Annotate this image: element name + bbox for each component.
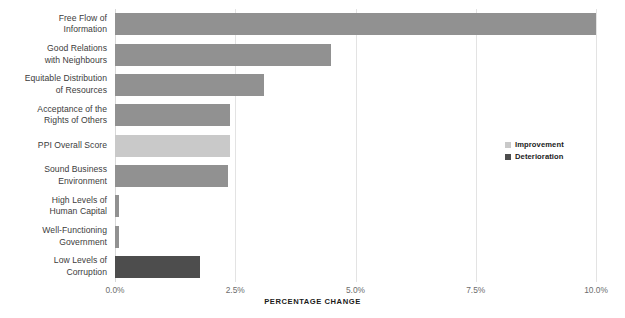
bar-chart: Free Flow ofInformationGood Relationswit… bbox=[0, 0, 625, 318]
legend-swatch-icon bbox=[505, 154, 511, 160]
category-label: Free Flow ofInformation bbox=[0, 13, 107, 36]
category-label: Equitable Distributionof Resources bbox=[0, 73, 107, 96]
x-tick-label: 0.0% bbox=[105, 285, 124, 295]
legend-item[interactable]: Deterioration bbox=[505, 151, 564, 162]
gridline-100 bbox=[596, 9, 597, 282]
category-label: Well-FunctioningGovernment bbox=[0, 225, 107, 248]
category-label-line: Human Capital bbox=[0, 206, 107, 217]
category-label-line: Environment bbox=[0, 176, 107, 187]
x-tick-label: 5.0% bbox=[346, 285, 365, 295]
category-label-line: Good Relations bbox=[0, 43, 107, 54]
x-tick-label: 7.5% bbox=[466, 285, 485, 295]
category-label: Low Levels ofCorruption bbox=[0, 255, 107, 278]
legend: ImprovementDeterioration bbox=[505, 139, 564, 163]
category-label-line: Corruption bbox=[0, 267, 107, 278]
category-label: PPI Overall Score bbox=[0, 140, 107, 151]
category-label-line: Well-Functioning bbox=[0, 225, 107, 236]
legend-label: Deterioration bbox=[515, 152, 564, 161]
x-axis-title: PERCENTAGE CHANGE bbox=[0, 297, 625, 306]
bar bbox=[115, 135, 230, 157]
category-label-line: Government bbox=[0, 237, 107, 248]
bar bbox=[115, 74, 264, 96]
category-label-line: Information bbox=[0, 24, 107, 35]
category-label-line: Equitable Distribution bbox=[0, 73, 107, 84]
category-axis-labels: Free Flow ofInformationGood Relationswit… bbox=[0, 9, 107, 282]
legend-item[interactable]: Improvement bbox=[505, 139, 564, 150]
category-label-line: of Resources bbox=[0, 85, 107, 96]
x-tick-label: 10.0% bbox=[584, 285, 608, 295]
bar bbox=[115, 13, 596, 35]
category-label: Acceptance of theRights of Others bbox=[0, 104, 107, 127]
category-label: Sound BusinessEnvironment bbox=[0, 164, 107, 187]
bar bbox=[115, 226, 119, 248]
legend-swatch-icon bbox=[505, 142, 511, 148]
category-label: Good Relationswith Neighbours bbox=[0, 43, 107, 66]
legend-label: Improvement bbox=[515, 140, 564, 149]
bar bbox=[115, 256, 200, 278]
category-label-line: Low Levels of bbox=[0, 255, 107, 266]
category-label-line: High Levels of bbox=[0, 195, 107, 206]
bar bbox=[115, 195, 119, 217]
x-tick-label: 2.5% bbox=[226, 285, 245, 295]
bar bbox=[115, 104, 230, 126]
category-label-line: PPI Overall Score bbox=[0, 140, 107, 151]
bar bbox=[115, 44, 331, 66]
bar bbox=[115, 165, 228, 187]
category-label-line: Sound Business bbox=[0, 164, 107, 175]
category-label-line: Rights of Others bbox=[0, 115, 107, 126]
category-label-line: Acceptance of the bbox=[0, 104, 107, 115]
category-label-line: Free Flow of bbox=[0, 13, 107, 24]
category-label-line: with Neighbours bbox=[0, 55, 107, 66]
category-label: High Levels ofHuman Capital bbox=[0, 195, 107, 218]
